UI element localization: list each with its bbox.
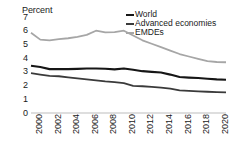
y-axis-tick-labels: 76543210 <box>14 0 28 144</box>
x-axis-tick-label: 2004 <box>72 114 81 134</box>
series-line <box>31 73 226 92</box>
y-axis-tick-label: 3 <box>18 67 28 76</box>
series-line <box>31 66 226 80</box>
x-axis-tick-label: 2008 <box>109 114 118 134</box>
y-axis-tick-label: 7 <box>18 13 28 22</box>
plot-svg <box>31 17 226 113</box>
x-axis-tick-label: 2010 <box>128 114 137 134</box>
x-axis-tick-label: 2016 <box>184 114 193 134</box>
x-axis-tick-label: 2012 <box>146 114 155 134</box>
y-axis-tick-label: 2 <box>18 81 28 90</box>
chart-figure: Percent 76543210 WorldAdvanced economies… <box>0 0 231 144</box>
plot-area <box>31 17 226 113</box>
y-axis-tick-label: 4 <box>18 54 28 63</box>
y-axis-tick-label: 5 <box>18 40 28 49</box>
x-axis-tick-labels: 2000200220042006200820102012201420162018… <box>31 114 231 144</box>
series-line <box>31 31 226 63</box>
y-axis-tick-label: 0 <box>18 109 28 118</box>
x-axis-tick-label: 2000 <box>35 114 44 134</box>
y-axis-tick-label: 1 <box>18 95 28 104</box>
x-axis-tick-label: 2018 <box>202 114 211 134</box>
x-axis-tick-label: 2014 <box>165 114 174 134</box>
y-axis-tick-label: 6 <box>18 26 28 35</box>
x-axis-tick-label: 2002 <box>54 114 63 134</box>
legend-line-swatch-icon <box>126 14 134 16</box>
series-lines <box>31 31 226 93</box>
x-axis-tick-label: 2020 <box>221 114 230 134</box>
x-axis-tick-label: 2006 <box>91 114 100 134</box>
